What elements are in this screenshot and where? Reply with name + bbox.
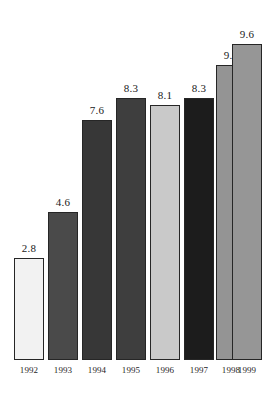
bar-1993 [48, 212, 78, 360]
bar-chart-figure: 2.819924.619937.619948.319958.119968.319… [0, 0, 264, 396]
bar-value-label: 2.8 [22, 242, 36, 254]
x-axis-tick-label: 1993 [54, 365, 72, 376]
bar-value-label: 7.6 [90, 104, 104, 116]
bar-group: 9.61999 [232, 44, 262, 360]
bar-value-label: 8.3 [124, 82, 138, 94]
bar-1992 [14, 258, 44, 360]
bar-group: 2.81992 [14, 258, 44, 360]
bar-value-label: 4.6 [56, 196, 70, 208]
x-axis-tick-label: 1995 [122, 365, 140, 376]
x-axis-tick-label: 1994 [88, 365, 106, 376]
x-axis-tick-label: 1999 [238, 365, 256, 376]
bar-1997 [184, 98, 214, 360]
bar-1995 [116, 98, 146, 360]
bar-group: 8.31997 [184, 98, 214, 360]
bar-group: 4.61993 [48, 212, 78, 360]
bar-1996 [150, 105, 180, 360]
x-axis-tick-label: 1997 [190, 365, 208, 376]
bar-value-label: 8.3 [192, 82, 206, 94]
bar-group: 8.11996 [150, 105, 180, 360]
bar-value-label: 9.6 [240, 28, 254, 40]
bar-1999 [232, 44, 262, 360]
bar-group: 7.61994 [82, 120, 112, 360]
chart-plot-area: 2.819924.619937.619948.319958.119968.319… [0, 0, 264, 396]
x-axis-tick-label: 1996 [156, 365, 174, 376]
x-axis-tick-label: 1992 [20, 365, 38, 376]
bar-value-label: 8.1 [158, 89, 172, 101]
bar-1994 [82, 120, 112, 360]
bar-group: 8.31995 [116, 98, 146, 360]
